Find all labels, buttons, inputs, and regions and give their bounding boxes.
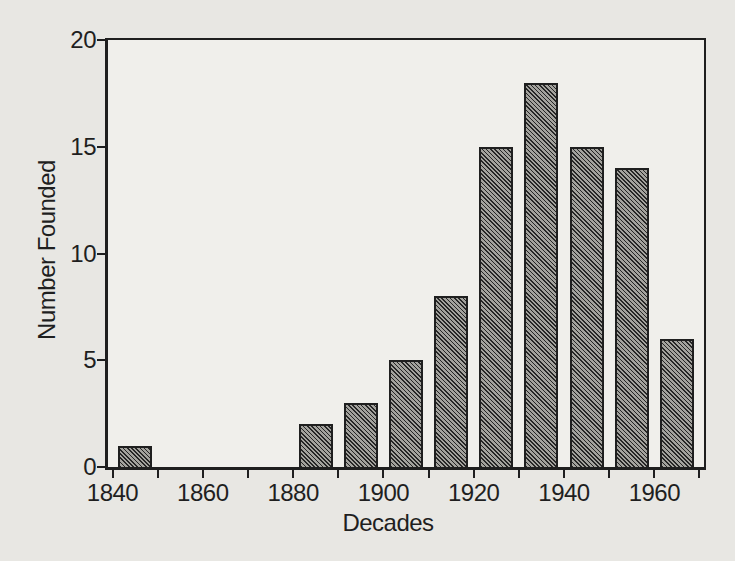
y-axis-tick-label: 20 xyxy=(30,26,96,54)
x-axis-title: Decades xyxy=(328,509,448,537)
x-axis-tick xyxy=(292,470,294,478)
x-axis-tick-label: 1880 xyxy=(253,479,333,507)
scanned-bar-chart-figure: Number Founded 1840186018801900192019401… xyxy=(0,0,735,561)
x-axis-tick-label: 1840 xyxy=(73,479,153,507)
y-axis-tick-label: 10 xyxy=(30,240,96,268)
bar xyxy=(299,424,333,467)
x-axis-tick xyxy=(473,470,475,478)
y-axis-tick-label: 5 xyxy=(30,346,96,374)
y-axis-tick xyxy=(97,466,105,468)
y-axis-tick xyxy=(97,146,105,148)
x-axis-tick-label: 1900 xyxy=(343,479,423,507)
bar xyxy=(660,339,694,467)
y-axis-tick-label: 15 xyxy=(30,133,96,161)
x-axis-tick-label: 1940 xyxy=(524,479,604,507)
x-axis-tick-label: 1960 xyxy=(614,479,694,507)
x-axis-tick xyxy=(428,470,430,478)
x-axis-tick xyxy=(247,470,249,478)
x-axis-tick xyxy=(608,470,610,478)
bar xyxy=(389,360,423,467)
x-axis-tick xyxy=(382,470,384,478)
x-axis-tick-label: 1920 xyxy=(434,479,514,507)
x-axis-tick xyxy=(518,470,520,478)
y-axis-tick-label: 0 xyxy=(30,453,96,481)
bar xyxy=(434,296,468,467)
bar xyxy=(479,147,513,467)
bar xyxy=(615,168,649,467)
y-axis-tick xyxy=(97,39,105,41)
bar xyxy=(570,147,604,467)
x-axis-tick xyxy=(337,470,339,478)
x-axis-tick xyxy=(653,470,655,478)
x-axis-tick xyxy=(563,470,565,478)
x-axis-tick xyxy=(698,470,700,478)
y-axis-tick xyxy=(97,253,105,255)
bar xyxy=(344,403,378,467)
bar xyxy=(118,446,152,467)
x-axis-tick xyxy=(202,470,204,478)
x-axis-tick-label: 1860 xyxy=(163,479,243,507)
x-axis-tick xyxy=(112,470,114,478)
y-axis-tick xyxy=(97,359,105,361)
bar xyxy=(524,83,558,467)
x-axis-tick xyxy=(157,470,159,478)
